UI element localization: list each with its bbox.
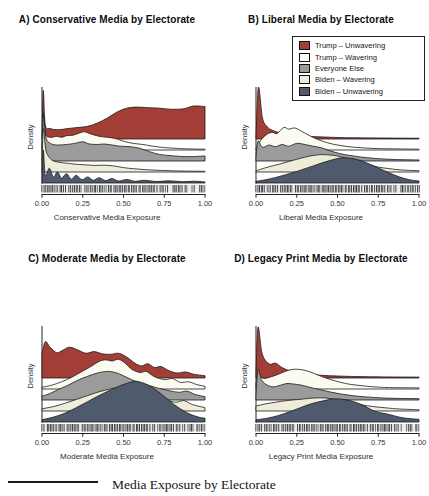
panel-legacy-print: D) Legacy Print Media by Electorate Dens… [214, 223, 428, 462]
x-tick-label: 0.25 [75, 199, 90, 208]
x-tick-label: 1.00 [198, 438, 213, 447]
y-axis-label: Density [240, 124, 249, 149]
legend-label: Biden – Wavering [315, 75, 375, 84]
x-tick-label: 0.50 [116, 438, 131, 447]
legend: Trump – Unwavering Trump – Wavering Ever… [292, 36, 425, 101]
x-tick-label: 0.00 [35, 438, 50, 447]
x-axis: 0.000.250.500.751.00 [249, 434, 427, 448]
x-axis: 0.000.250.500.751.00 [35, 195, 213, 209]
legend-label: Biden – Unwavering [315, 87, 383, 96]
x-axis: 0.000.250.500.751.00 [249, 195, 427, 209]
rug [42, 185, 205, 193]
legend-item-trump-unwavering: Trump – Unwavering [299, 40, 420, 51]
x-tick-label: 0.00 [249, 438, 264, 447]
caption-text: Media Exposure by Electorate [112, 474, 276, 496]
x-tick-label: 1.00 [412, 438, 427, 447]
legend-item-everyone-else: Everyone Else [299, 63, 420, 74]
caption-rule [8, 481, 98, 483]
x-tick-label: 0.25 [289, 438, 304, 447]
x-tick-label: 0.00 [35, 199, 50, 208]
panel-conservative-xlabel: Conservative Media Exposure [0, 212, 214, 223]
rug [42, 424, 205, 432]
legend-swatch-biden-unwavering [299, 87, 310, 96]
ridge-trump_unwavering [256, 327, 419, 378]
y-axis-label: Density [26, 363, 35, 388]
x-tick-label: 0.00 [249, 199, 264, 208]
panel-moderate-title: C) Moderate Media by Electorate [0, 251, 214, 266]
legend-swatch-trump-unwavering [299, 41, 310, 50]
x-tick-label: 1.00 [412, 199, 427, 208]
panel-legacy-print-title: D) Legacy Print Media by Electorate [214, 251, 428, 266]
panel-moderate: C) Moderate Media by Electorate Density0… [0, 223, 214, 462]
legend-item-biden-unwavering: Biden – Unwavering [299, 86, 420, 97]
x-tick-label: 1.00 [198, 199, 213, 208]
x-axis: 0.000.250.500.751.00 [35, 434, 213, 448]
figure-grid: A) Conservative Media by Electorate Dens… [0, 0, 429, 462]
panel-liberal-title: B) Liberal Media by Electorate [214, 12, 428, 27]
x-tick-label: 0.25 [75, 438, 90, 447]
panel-legacy-print-xlabel: Legacy Print Media Exposure [214, 451, 428, 462]
panel-liberal-xlabel: Liberal Media Exposure [214, 212, 428, 223]
legend-item-trump-wavering: Trump – Wavering [299, 51, 420, 62]
ridge-trump_unwavering [42, 90, 205, 139]
bottom-caption: Media Exposure by Electorate [0, 474, 429, 489]
x-tick-label: 0.75 [157, 438, 172, 447]
legend-label: Everyone Else [315, 64, 364, 73]
panel-legacy-print-plot: Density0.000.250.500.751.00 [214, 272, 428, 450]
y-axis-label: Density [240, 363, 249, 388]
x-tick-label: 0.75 [157, 199, 172, 208]
panel-conservative: A) Conservative Media by Electorate Dens… [0, 0, 214, 223]
y-axis-label: Density [26, 124, 35, 149]
x-tick-label: 0.50 [116, 199, 131, 208]
panel-moderate-xlabel: Moderate Media Exposure [0, 451, 214, 462]
panel-conservative-title: A) Conservative Media by Electorate [0, 12, 214, 27]
legend-swatch-everyone-else [299, 64, 310, 73]
legend-swatch-biden-wavering [299, 75, 310, 84]
x-tick-label: 0.50 [330, 438, 345, 447]
panel-liberal: B) Liberal Media by Electorate Trump – U… [214, 0, 428, 223]
x-tick-label: 0.75 [371, 438, 386, 447]
legend-swatch-trump-wavering [299, 53, 310, 62]
panel-conservative-plot: Density0.000.250.500.751.00 [0, 33, 214, 211]
rug [256, 424, 419, 432]
legend-item-biden-wavering: Biden – Wavering [299, 74, 420, 85]
legend-label: Trump – Wavering [315, 53, 377, 62]
x-tick-label: 0.50 [330, 199, 345, 208]
x-tick-label: 0.75 [371, 199, 386, 208]
panel-moderate-plot: Density0.000.250.500.751.00 [0, 272, 214, 450]
rug [256, 185, 419, 193]
legend-label: Trump – Unwavering [315, 41, 385, 50]
x-tick-label: 0.25 [289, 199, 304, 208]
